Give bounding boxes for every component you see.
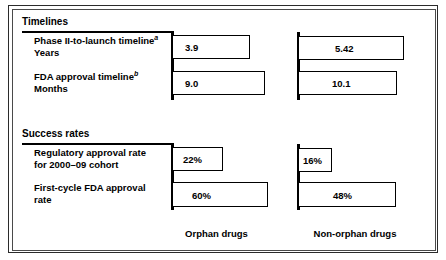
row-label-line2: for 2000–09 cohort (34, 159, 118, 170)
row-label-line1: First-cycle FDA approval (34, 182, 146, 193)
bar-value-label: 9.0 (185, 78, 198, 89)
bar-value-label: 22% (183, 154, 202, 165)
group-label-non-orphan-drugs: Non-orphan drugs (295, 228, 415, 239)
chart-plot-area: Timelines Phase II-to-launch timelinea Y… (13, 10, 435, 250)
bar-value-label: 3.9 (185, 42, 198, 53)
bar-orphan-first-cycle-fda-approval-rate: 60% (172, 182, 268, 207)
bar-value-label: 60% (192, 189, 211, 200)
bar-value-label: 16% (303, 155, 322, 166)
row-label-line2: Months (34, 83, 68, 94)
section-rule-success-rates (22, 143, 171, 145)
bar-nonorphan-first-cycle-fda-approval-rate: 48% (298, 182, 396, 207)
bar-nonorphan-regulatory-approval-rate: 16% (298, 148, 332, 172)
bar-value-label: 48% (333, 189, 352, 200)
row-label-line2: Years (34, 47, 59, 58)
row-label-line2: rate (34, 194, 51, 205)
bar-value-label: 5.42 (335, 43, 354, 54)
bar-orphan-fda-approval-timeline: 9.0 (172, 71, 265, 95)
bar-nonorphan-phase-ii-to-launch: 5.42 (298, 36, 404, 60)
row-label-line1: Regulatory approval rate (34, 147, 146, 158)
row-label-line1: FDA approval timeline (34, 71, 134, 82)
row-label-line1: Phase II-to-launch timeline (34, 35, 154, 46)
footnote-marker-b: b (134, 70, 138, 77)
section-heading-success-rates: Success rates (22, 128, 89, 139)
section-rule-timelines (22, 31, 171, 33)
row-label-fda-approval-timeline: FDA approval timelineb Months (34, 71, 138, 94)
bar-orphan-phase-ii-to-launch: 3.9 (172, 35, 250, 59)
figure-outer-frame: Timelines Phase II-to-launch timelinea Y… (8, 5, 438, 253)
section-heading-timelines: Timelines (22, 16, 68, 27)
footnote-marker-a: a (154, 34, 158, 41)
bar-nonorphan-fda-approval-timeline: 10.1 (298, 71, 397, 95)
row-label-regulatory-approval-rate: Regulatory approval rate for 2000–09 coh… (34, 147, 146, 170)
bar-value-label: 10.1 (332, 78, 351, 89)
row-label-first-cycle-fda-approval-rate: First-cycle FDA approval rate (34, 182, 146, 205)
bar-orphan-regulatory-approval-rate: 22% (172, 147, 223, 171)
row-label-phase-ii-to-launch: Phase II-to-launch timelinea Years (34, 35, 158, 58)
figure-inner-frame: Timelines Phase II-to-launch timelinea Y… (12, 9, 436, 251)
group-label-orphan-drugs: Orphan drugs (169, 228, 264, 239)
